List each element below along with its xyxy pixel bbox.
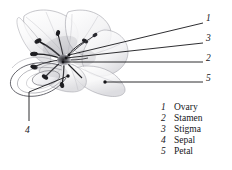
legend: 1 Ovary 2 Stamen 3 Stigma 4 Sepal 5 Peta… — [158, 102, 230, 157]
callout-number-1: 1 — [206, 14, 211, 24]
legend-number-4: 4 — [158, 135, 174, 146]
legend-number-5: 5 — [158, 146, 174, 157]
legend-number-3: 3 — [158, 124, 174, 135]
legend-item-2: 2 Stamen — [158, 113, 230, 124]
legend-label-ovary: Ovary — [174, 102, 198, 113]
legend-label-petal: Petal — [174, 146, 193, 157]
legend-label-sepal: Sepal — [174, 135, 195, 146]
legend-number-1: 1 — [158, 102, 174, 113]
legend-item-4: 4 Sepal — [158, 135, 230, 146]
legend-item-3: 3 Stigma — [158, 124, 230, 135]
legend-label-stamen: Stamen — [174, 113, 203, 124]
callout-number-4: 4 — [25, 126, 30, 136]
legend-item-5: 5 Petal — [158, 146, 230, 157]
callout-number-5: 5 — [206, 74, 211, 84]
flower-anatomy-figure: 1 3 2 5 4 1 Ovary 2 Stamen 3 Stigma 4 Se… — [0, 0, 232, 170]
callout-number-2: 2 — [206, 54, 211, 64]
legend-number-2: 2 — [158, 113, 174, 124]
legend-label-stigma: Stigma — [174, 124, 201, 135]
callout-number-3: 3 — [206, 34, 211, 44]
legend-item-1: 1 Ovary — [158, 102, 230, 113]
